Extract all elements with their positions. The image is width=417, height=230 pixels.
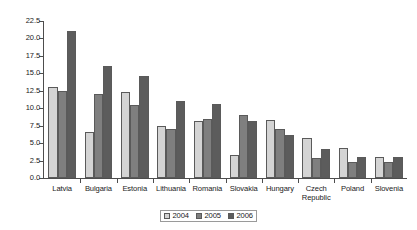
legend: 200420052006 [0, 210, 417, 222]
bar-group [121, 21, 149, 178]
bar[interactable] [48, 87, 57, 178]
bar-group [194, 21, 222, 178]
bar-group [230, 21, 258, 178]
bar-group [375, 21, 403, 178]
bar[interactable] [312, 158, 321, 178]
x-axis-tick-mark [189, 179, 190, 183]
bar[interactable] [348, 162, 357, 178]
bars-container [44, 21, 407, 178]
x-axis-tick-mark [371, 179, 372, 183]
bar-group [85, 21, 113, 178]
bar[interactable] [157, 126, 166, 178]
bar[interactable] [212, 104, 221, 178]
bar[interactable] [130, 105, 139, 178]
bar[interactable] [58, 91, 67, 178]
y-axis-tick-label: 20.0 [8, 35, 40, 43]
bar[interactable] [357, 157, 366, 178]
bar[interactable] [384, 162, 393, 178]
bar-group [48, 21, 76, 178]
x-axis-category-labels: LatviaBulgariaEstoniaLithuaniaRomaniaSlo… [44, 184, 407, 210]
x-axis-tick-mark [334, 179, 335, 183]
y-axis-tick-label: 0.0 [8, 174, 40, 182]
y-axis-tick-label: 22.5 [8, 17, 40, 25]
bar-group [302, 21, 330, 178]
bar[interactable] [302, 138, 311, 178]
bar[interactable] [194, 121, 203, 178]
legend-label: 2005 [205, 212, 222, 220]
bar-chart: 22.520.017.515.012.510.07.55.02.50.0 Lat… [0, 0, 417, 230]
legend-label: 2006 [237, 212, 254, 220]
bar[interactable] [248, 121, 257, 178]
bar[interactable] [94, 94, 103, 178]
bar[interactable] [275, 129, 284, 178]
bar[interactable] [67, 31, 76, 178]
bar[interactable] [266, 120, 275, 178]
legend-item[interactable]: 2005 [196, 212, 221, 220]
bar[interactable] [139, 76, 148, 178]
legend-label: 2004 [173, 212, 190, 220]
bar[interactable] [339, 148, 348, 178]
bar[interactable] [85, 132, 94, 178]
bar[interactable] [230, 155, 239, 178]
bar-group [266, 21, 294, 178]
x-axis-tick-mark [153, 179, 154, 183]
bar[interactable] [176, 101, 185, 178]
legend-swatch-icon [196, 213, 202, 219]
bar[interactable] [239, 115, 248, 178]
y-axis-tick-label: 12.5 [8, 87, 40, 95]
x-axis-tick-mark [298, 179, 299, 183]
legend-swatch-icon [164, 213, 170, 219]
bar-group [339, 21, 367, 178]
legend-item[interactable]: 2006 [228, 212, 253, 220]
x-axis-tick-mark [262, 179, 263, 183]
x-axis-tick-mark [226, 179, 227, 183]
bar[interactable] [321, 149, 330, 178]
x-axis-tick-mark [80, 179, 81, 183]
bar[interactable] [103, 66, 112, 178]
y-axis-tick-label: 10.0 [8, 104, 40, 112]
y-axis-tick-label: 7.5 [8, 122, 40, 130]
bar[interactable] [393, 157, 402, 178]
legend-item[interactable]: 2004 [164, 212, 189, 220]
y-axis-tick-label: 17.5 [8, 52, 40, 60]
legend-swatch-icon [228, 213, 234, 219]
y-axis-tick-label: 5.0 [8, 139, 40, 147]
bar[interactable] [166, 129, 175, 178]
bar[interactable] [203, 119, 212, 178]
plot-area: 22.520.017.515.012.510.07.55.02.50.0 Lat… [0, 0, 417, 196]
y-axis-tick-label: 2.5 [8, 157, 40, 165]
y-axis-tick-labels: 22.520.017.515.012.510.07.55.02.50.0 [8, 16, 40, 180]
legend-box: 200420052006 [160, 210, 257, 222]
y-axis-tick-label: 15.0 [8, 70, 40, 78]
bar[interactable] [121, 92, 130, 178]
x-axis-category-label: Slovenia [366, 184, 411, 193]
bar[interactable] [375, 157, 384, 178]
x-axis-tick-mark [117, 179, 118, 183]
bar[interactable] [285, 135, 294, 178]
bar-group [157, 21, 185, 178]
